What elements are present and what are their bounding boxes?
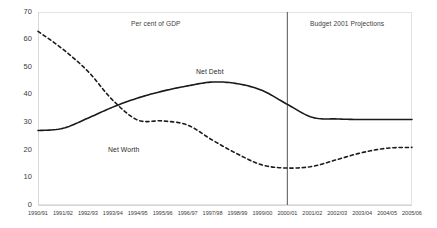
chart-svg-layer	[0, 0, 437, 228]
x-axis-tick-2005-06: 2005/06	[400, 210, 424, 217]
x-axis-tick-1998-99: 1998/99	[225, 210, 249, 217]
x-axis-tick-2003-04: 2003/04	[350, 210, 374, 217]
x-axis-tick-1995-96: 1995/96	[151, 210, 175, 217]
x-axis-tick-1990-91: 1990/91	[26, 210, 50, 217]
series-line-net-debt	[38, 82, 412, 131]
x-axis-tick-1994-95: 1994/95	[126, 210, 150, 217]
chart-container: 70 60 50 40 30 20 10 0 Per cent of GDP B…	[0, 0, 437, 228]
x-axis-tick-1992-93: 1992/93	[76, 210, 100, 217]
x-axis-tick-1996-97: 1996/97	[176, 210, 200, 217]
x-axis-tick-2000-01: 2000/01	[275, 210, 299, 217]
x-axis-tick-2001-02: 2001/02	[300, 210, 324, 217]
x-axis-tick-1997-98: 1997/98	[201, 210, 225, 217]
series-line-net-worth	[38, 31, 412, 168]
x-axis-tick-1991-92: 1991/92	[51, 210, 75, 217]
x-axis-tick-2004-05: 2004/05	[375, 210, 399, 217]
x-axis-tick-1999-00: 1999/00	[250, 210, 274, 217]
x-axis-tick-1993-94: 1993/94	[101, 210, 125, 217]
x-axis-tick-2002-03: 2002/03	[325, 210, 349, 217]
